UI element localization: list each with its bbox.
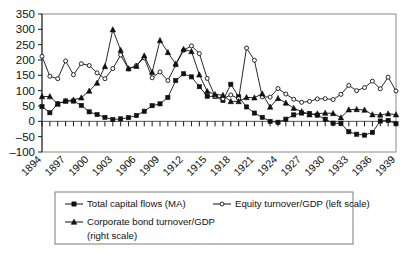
- data-point: [134, 113, 138, 117]
- x-tick-label: 1903: [89, 153, 114, 178]
- data-point: [284, 92, 288, 96]
- data-point: [355, 132, 359, 136]
- data-point: [95, 71, 99, 75]
- data-point: [276, 120, 280, 124]
- data-point: [347, 83, 351, 87]
- y-tick-label: 50: [22, 100, 35, 112]
- data-point: [323, 97, 327, 101]
- x-tick-label: 1930: [302, 153, 327, 178]
- x-tick-label: 1915: [184, 153, 209, 178]
- data-point: [48, 74, 52, 78]
- data-point: [252, 111, 256, 115]
- data-point: [244, 105, 248, 109]
- x-tick-label-group: 1912: [160, 153, 185, 178]
- data-point: [174, 78, 178, 82]
- x-tick-label-group: 1915: [184, 153, 209, 178]
- data-point: [64, 59, 68, 63]
- data-point: [197, 85, 201, 89]
- data-point: [95, 112, 99, 116]
- x-tick-label-group: 1933: [325, 153, 350, 178]
- data-point: [189, 75, 193, 79]
- chart-container: 350300250200150100500–50–100189418971900…: [0, 0, 408, 254]
- x-tick-label: 1927: [278, 153, 303, 178]
- x-tick-label-group: 1939: [372, 153, 397, 178]
- series-path: [42, 74, 396, 135]
- x-tick-label-group: 1930: [302, 153, 327, 178]
- y-tick-label: –50: [16, 131, 35, 143]
- data-point: [189, 44, 193, 48]
- legend-marker: [220, 202, 224, 206]
- data-point: [166, 79, 170, 83]
- x-tick-label: 1933: [325, 153, 350, 178]
- data-point: [339, 92, 343, 96]
- x-tick-label: 1921: [231, 153, 256, 178]
- data-point: [205, 88, 210, 93]
- x-tick-label: 1900: [66, 153, 91, 178]
- data-point: [385, 111, 390, 116]
- data-point: [252, 58, 256, 62]
- x-tick-label-group: 1927: [278, 153, 303, 178]
- x-tick-label-group: 1897: [42, 153, 67, 178]
- data-point: [245, 46, 249, 50]
- data-point: [291, 105, 296, 110]
- data-point: [260, 91, 265, 96]
- data-point: [87, 110, 91, 114]
- data-point: [378, 119, 382, 123]
- x-tick-label: 1939: [372, 153, 397, 178]
- data-point: [276, 87, 280, 91]
- data-point: [79, 62, 83, 66]
- data-point: [205, 76, 209, 80]
- data-point: [229, 82, 233, 86]
- x-tick-label-group: 1936: [349, 153, 374, 178]
- data-point: [142, 53, 147, 58]
- x-tick-label: 1936: [349, 153, 374, 178]
- data-point: [197, 72, 202, 77]
- data-point: [126, 116, 130, 120]
- data-point: [48, 111, 52, 115]
- data-point: [94, 80, 99, 85]
- y-tick-label: 150: [16, 69, 35, 81]
- x-tick-label-group: 1903: [89, 153, 114, 178]
- legend-entry-equity-turnover: Equity turnover/GDP (left scale): [213, 198, 370, 209]
- x-tick-label: 1924: [254, 153, 279, 178]
- data-point: [158, 102, 162, 106]
- series-1: [40, 72, 398, 138]
- data-point: [197, 52, 201, 56]
- data-point: [260, 115, 264, 119]
- data-point: [71, 73, 75, 77]
- x-tick-label: 1897: [42, 153, 67, 178]
- data-point: [40, 105, 44, 109]
- data-point: [378, 87, 382, 91]
- data-point: [79, 103, 83, 107]
- time-series-chart: 350300250200150100500–50–100189418971900…: [0, 0, 408, 254]
- data-point: [284, 117, 288, 121]
- data-point: [111, 117, 115, 121]
- legend-entry-corporate-bond: Corporate bond turnover/GDP: [65, 216, 215, 227]
- data-point: [268, 95, 272, 99]
- legend-label: Corporate bond turnover/GDP: [87, 216, 215, 227]
- y-tick-label: 300: [16, 23, 35, 35]
- x-tick-label-group: 1918: [207, 153, 232, 178]
- data-point: [102, 64, 107, 69]
- y-tick-label: 250: [16, 39, 35, 51]
- data-point: [275, 95, 280, 100]
- x-tick-label: 1906: [113, 153, 138, 178]
- data-point: [87, 64, 91, 68]
- data-point: [103, 115, 107, 119]
- data-point: [283, 100, 288, 105]
- data-point: [394, 122, 398, 126]
- data-point: [182, 72, 186, 76]
- data-point: [111, 67, 115, 71]
- legend-label: Equity turnover/GDP (left scale): [235, 198, 370, 209]
- x-tick-label: 1912: [160, 153, 185, 178]
- data-point: [386, 75, 390, 79]
- data-point: [56, 77, 60, 81]
- data-point: [158, 70, 162, 74]
- y-tick-label: 100: [16, 85, 35, 97]
- data-point: [363, 86, 367, 90]
- data-point: [370, 130, 374, 134]
- data-point: [347, 130, 351, 134]
- data-point: [323, 117, 327, 121]
- data-point: [157, 37, 162, 42]
- legend-label: Total capital flows (MA): [87, 198, 186, 209]
